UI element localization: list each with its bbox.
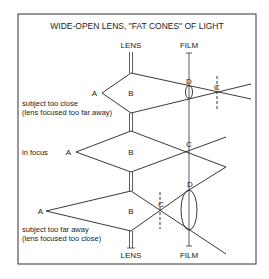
point-d-case1: D (186, 77, 192, 86)
point-c-case3: C (158, 200, 164, 209)
point-d-case3: D (187, 180, 193, 189)
point-b-case1: B (128, 89, 133, 98)
film-label-bottom: FILM (180, 251, 199, 260)
point-c-case1: C (214, 83, 220, 92)
diagram-canvas: WIDE-OPEN LENS, "FAT CONES" OF LIGHT LEN… (0, 0, 269, 279)
point-a-case1: A (92, 89, 98, 98)
caption-case1-line2: (lens focused too far away) (22, 108, 113, 117)
point-b-case2: B (128, 148, 133, 157)
diagram-title: WIDE-OPEN LENS, "FAT CONES" OF LIGHT (50, 21, 223, 31)
point-c-case2: C (186, 140, 192, 149)
caption-case3-line2: (lens focused too close) (22, 234, 102, 243)
caption-case1-line1: subject too close (22, 99, 78, 108)
case-in-focus (76, 131, 226, 172)
caption-case3-line1: subject too far away (22, 225, 89, 234)
case-too-close (102, 73, 251, 113)
lens-label-top: LENS (121, 41, 142, 50)
lens-label-bottom: LENS (121, 251, 142, 260)
point-a-case2: A (66, 148, 72, 157)
caption-case2: in focus (22, 148, 48, 157)
point-b-case3: B (128, 207, 133, 216)
point-a-case3: A (38, 207, 44, 216)
film-label-top: FILM (180, 41, 199, 50)
